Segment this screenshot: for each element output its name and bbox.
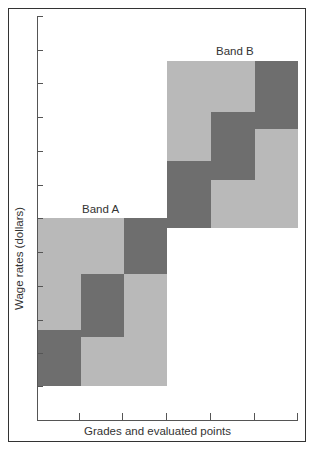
x-tick: [254, 413, 255, 420]
x-axis: [37, 420, 298, 421]
x-tick: [122, 413, 123, 420]
y-tick: [37, 252, 43, 253]
x-tick: [297, 413, 298, 420]
band-b-step-1: [167, 161, 211, 228]
y-tick: [37, 386, 43, 387]
x-axis-label: Grades and evaluated points: [0, 425, 315, 437]
x-tick: [166, 413, 167, 420]
band-b-step-2: [211, 112, 255, 180]
band-a-step-1: [37, 330, 81, 386]
y-tick: [37, 151, 43, 152]
band-a-label: Band A: [82, 203, 119, 215]
y-tick: [37, 286, 43, 287]
y-tick: [37, 50, 43, 51]
band-a-light-lower: [124, 274, 167, 386]
y-axis-label: Wage rates (dollars): [13, 207, 25, 310]
y-tick: [37, 218, 43, 219]
band-b-step-3: [255, 61, 298, 129]
y-tick: [37, 353, 43, 354]
band-b-light-lower: [255, 129, 298, 228]
band-a-light-lower-mid: [81, 337, 124, 386]
band-b-light-upper: [167, 61, 255, 117]
y-tick: [37, 83, 43, 84]
band-a-light-upper-mid: [37, 274, 81, 330]
y-tick: [37, 16, 43, 17]
band-a-light-upper: [37, 218, 124, 274]
band-b-label: Band B: [216, 45, 254, 57]
y-tick: [37, 117, 43, 118]
y-tick: [37, 185, 43, 186]
x-tick: [79, 413, 80, 420]
y-tick: [37, 320, 43, 321]
band-b-light-lower-mid: [211, 180, 255, 228]
x-tick: [210, 413, 211, 420]
band-b-light-upper-mid: [167, 117, 211, 162]
